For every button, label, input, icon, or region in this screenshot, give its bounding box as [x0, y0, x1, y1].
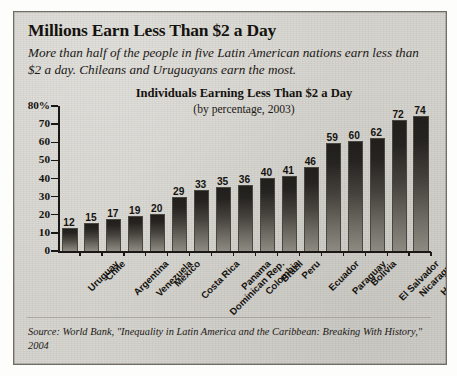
x-axis-tick: [387, 252, 388, 256]
x-axis-line: [58, 251, 431, 253]
x-axis-category-label: Chile: [103, 258, 127, 282]
chart-title: Individuals Earning Less Than $2 a Day: [84, 86, 404, 101]
bar: [392, 120, 407, 252]
bar-group: 74: [413, 106, 426, 251]
x-axis-tick: [145, 252, 146, 256]
bar: [238, 185, 253, 251]
y-axis-tick-label: 80%: [16, 99, 50, 111]
infographic-page: Millions Earn Less Than $2 a Day More th…: [0, 0, 457, 376]
bar-group: 72: [392, 106, 405, 251]
x-axis-tick: [167, 252, 168, 256]
y-axis-tick: [51, 123, 58, 124]
y-axis-tick: [51, 142, 58, 143]
y-axis-tick-label: 50: [16, 153, 50, 165]
bar-group: 12: [62, 106, 75, 251]
y-axis-labels: 01020304050607080%: [14, 86, 50, 286]
bar: [282, 176, 297, 251]
bar-group: 15: [84, 106, 97, 251]
bar: [304, 167, 319, 251]
x-axis-category-label: Costa Rica: [198, 258, 241, 301]
bar-group: 36: [238, 106, 251, 251]
x-axis-tick: [211, 252, 212, 256]
x-axis-category-label: Peru: [300, 258, 323, 281]
bar: [62, 228, 77, 251]
bar-value-label: 62: [356, 127, 396, 138]
y-axis-tick-label: 10: [16, 226, 50, 238]
bar: [413, 116, 428, 251]
bar-chart: Individuals Earning Less Than $2 a Day (…: [14, 86, 446, 302]
y-axis-tick-label: 20: [16, 208, 50, 220]
bar-value-label: 20: [137, 203, 177, 214]
x-axis-tick: [343, 252, 344, 256]
infographic-frame: Millions Earn Less Than $2 a Day More th…: [13, 11, 447, 365]
bar: [172, 197, 187, 251]
bar-group: 17: [106, 106, 119, 251]
y-axis-line: [58, 106, 60, 252]
y-axis-tick-label: 60: [16, 135, 50, 147]
bar-group: 46: [304, 106, 317, 251]
y-axis-tick-label: 30: [16, 190, 50, 202]
x-axis-tick: [277, 252, 278, 256]
bar: [326, 143, 341, 251]
x-axis-tick: [189, 252, 190, 256]
bar: [216, 187, 231, 251]
y-axis-tick-label: 70: [16, 117, 50, 129]
bar: [348, 141, 363, 251]
bar: [194, 190, 209, 251]
x-axis-tick: [123, 252, 124, 256]
y-axis-tick: [51, 160, 58, 161]
y-axis-tick-label: 0: [16, 244, 50, 256]
x-axis-tick: [79, 252, 80, 256]
x-axis-tick: [299, 252, 300, 256]
bar: [106, 219, 121, 251]
x-axis-tick: [321, 252, 322, 256]
deck-text: More than half of the people in five Lat…: [28, 44, 432, 78]
y-axis-tick: [51, 178, 58, 179]
x-axis-tick: [101, 252, 102, 256]
y-axis-tick: [51, 232, 58, 233]
bar: [260, 178, 275, 252]
bar-group: 20: [150, 106, 163, 251]
x-axis-tick: [255, 252, 256, 256]
y-axis-tick: [51, 214, 58, 215]
bar: [128, 216, 143, 251]
bar-group: 19: [128, 106, 141, 251]
bar-group: 40: [260, 106, 273, 251]
y-axis-tick-label: 40: [16, 172, 50, 184]
bar: [150, 214, 165, 251]
page-title: Millions Earn Less Than $2 a Day: [28, 20, 428, 41]
y-axis-tick: [51, 196, 58, 197]
x-axis-tick: [430, 252, 431, 256]
source-note: Source: World Bank, "Inequality in Latin…: [28, 325, 428, 352]
bar-group: 62: [370, 106, 383, 251]
bar-group: 59: [326, 106, 339, 251]
y-axis-tick: [51, 250, 58, 251]
x-axis-tick: [365, 252, 366, 256]
bar-value-label: 46: [290, 156, 330, 167]
bar: [370, 138, 385, 251]
bar: [84, 223, 99, 251]
footer-divider: [27, 317, 431, 318]
x-axis-tick: [233, 252, 234, 256]
x-axis-tick: [408, 252, 409, 256]
y-axis-tick: [51, 105, 58, 106]
bar-value-label: 74: [400, 105, 440, 116]
bar-group: 41: [282, 106, 295, 251]
